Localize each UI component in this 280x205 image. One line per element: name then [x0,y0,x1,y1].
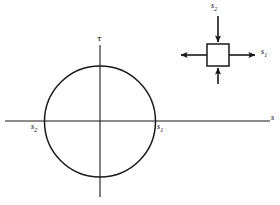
stress-element-s2-label: s2 [211,2,217,12]
figure-canvas [0,0,280,205]
stress-element-s1-sub: 1 [264,52,267,58]
mohr-point-s1-label: s1 [157,123,163,133]
tau-axis-label: τ [97,35,101,43]
stress-element-s1-label: s1 [261,48,267,58]
sigma-axis-label-text: s [271,113,274,122]
mohr-point-s2-sub: 2 [34,127,37,133]
stress-element-s2-sub: 2 [214,6,217,12]
mohr-point-s1-sub: 1 [160,127,163,133]
tau-axis-label-text: τ [97,34,101,43]
sigma-axis-label: s [271,114,274,122]
mohrs-circle-figure: s τ s2 s1 s2 s1 [0,0,280,205]
mohr-point-s2-label: s2 [31,123,37,133]
stress-element-square [207,44,229,66]
